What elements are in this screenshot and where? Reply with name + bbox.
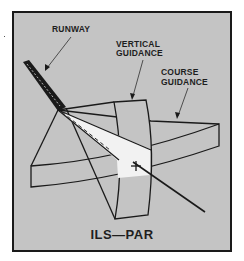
vertical-guidance-label-line2: GUIDANCE	[116, 49, 163, 58]
runway-label: RUNWAY	[52, 25, 90, 34]
figure-title: ILS—PAR	[0, 227, 244, 242]
course-guidance-label-line2: GUIDANCE	[161, 78, 208, 87]
course-guidance-label-line1: COURSE	[161, 68, 199, 77]
